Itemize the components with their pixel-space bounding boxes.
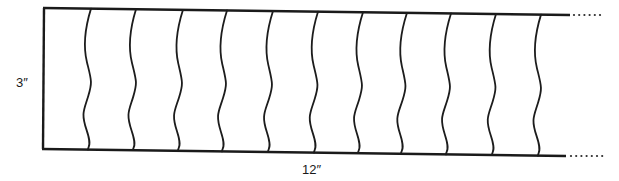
wavy-fold-line <box>533 15 541 156</box>
width-dimension-label: 12″ <box>302 163 321 176</box>
strip-diagram <box>0 0 619 181</box>
continuation-dot <box>573 14 575 16</box>
wavy-fold-line <box>174 10 183 151</box>
continuation-dot <box>601 155 603 157</box>
wavy-fold-line <box>264 11 273 152</box>
wavy-fold-line <box>397 13 407 154</box>
continuation-dot <box>583 14 585 16</box>
wavy-fold-lines <box>83 9 541 156</box>
continuation-dot <box>591 155 593 157</box>
wavy-fold-line <box>488 14 496 155</box>
continuation-dot <box>599 14 601 16</box>
wavy-fold-line <box>354 12 363 153</box>
wavy-fold-line <box>218 10 227 151</box>
wavy-fold-line <box>83 9 91 150</box>
wavy-fold-line <box>310 12 318 153</box>
continuation-dot <box>589 14 591 16</box>
height-dimension-label: 3″ <box>16 76 28 89</box>
top-continuation-dots <box>573 14 601 16</box>
wavy-fold-line <box>442 13 451 154</box>
continuation-dot <box>594 14 596 16</box>
continuation-dot <box>570 155 572 157</box>
bottom-continuation-dots <box>570 155 603 157</box>
continuation-dot <box>596 155 598 157</box>
continuation-dot <box>575 155 577 157</box>
left-edge <box>43 8 44 149</box>
top-edge <box>43 8 570 15</box>
wavy-fold-line <box>128 9 136 150</box>
continuation-dot <box>586 155 588 157</box>
bottom-edge <box>42 149 566 156</box>
continuation-dot <box>578 14 580 16</box>
continuation-dot <box>580 155 582 157</box>
